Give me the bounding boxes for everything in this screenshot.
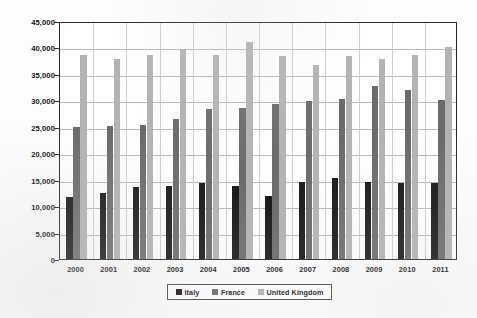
x-tick-label: 2005 — [233, 265, 250, 274]
legend-entry-united-kingdom[interactable]: United Kingdom — [258, 288, 323, 297]
bar-united-kingdom-2007 — [313, 65, 319, 259]
bar-group — [398, 23, 418, 259]
bar-group — [133, 23, 153, 259]
category-separator — [292, 23, 293, 259]
category-separator — [259, 23, 260, 259]
category-separator — [126, 23, 127, 259]
x-tick-label: 2003 — [167, 265, 184, 274]
bar-united-kingdom-2011 — [445, 47, 451, 259]
bar-group — [232, 23, 252, 259]
bar-france-2004 — [206, 109, 212, 259]
bar-united-kingdom-2005 — [246, 42, 252, 259]
bar-united-kingdom-2008 — [346, 56, 352, 259]
bar-group — [365, 23, 385, 259]
bar-italy-2001 — [100, 193, 106, 259]
category-separator — [392, 23, 393, 259]
bar-france-2003 — [173, 119, 179, 259]
bar-france-2000 — [73, 127, 79, 259]
x-tick-label: 2011 — [432, 265, 448, 274]
y-tick-label: 40,000 — [0, 44, 55, 53]
bar-chart-figure: 05,00010,00015,00020,00025,00030,00035,0… — [0, 0, 477, 318]
bar-italy-2008 — [332, 178, 338, 259]
category-separator — [325, 23, 326, 259]
bar-france-2007 — [306, 101, 312, 259]
legend-swatch-icon — [176, 289, 182, 295]
category-separator — [425, 23, 426, 259]
x-tick-label: 2009 — [366, 265, 383, 274]
bar-united-kingdom-2001 — [114, 59, 120, 259]
y-tick-label: 0 — [0, 256, 55, 265]
category-separator — [226, 23, 227, 259]
x-tick-label: 2008 — [332, 265, 349, 274]
bar-france-2008 — [339, 99, 345, 259]
bar-italy-2005 — [232, 186, 238, 259]
x-tick-label: 2000 — [67, 265, 84, 274]
y-tick-label: 30,000 — [0, 97, 55, 106]
bar-italy-2010 — [398, 183, 404, 259]
bar-united-kingdom-2002 — [147, 55, 153, 259]
category-separator — [193, 23, 194, 259]
legend-swatch-icon — [258, 289, 264, 295]
legend-label: Italy — [185, 288, 200, 297]
category-separator — [93, 23, 94, 259]
bar-united-kingdom-2010 — [412, 55, 418, 259]
y-tick-label: 35,000 — [0, 70, 55, 79]
chart-legend: ItalyFranceUnited Kingdom — [167, 284, 332, 300]
category-separator — [160, 23, 161, 259]
plot-area — [59, 22, 457, 260]
bar-group — [431, 23, 451, 259]
bar-italy-2006 — [265, 196, 271, 259]
bar-group — [265, 23, 285, 259]
bar-france-2011 — [438, 100, 444, 259]
bar-italy-2007 — [299, 182, 305, 259]
legend-entry-italy[interactable]: Italy — [176, 288, 199, 297]
x-tick-label: 2007 — [299, 265, 316, 274]
y-tick-label: 5,000 — [0, 229, 55, 238]
bar-france-2005 — [239, 108, 245, 259]
bar-france-2009 — [372, 86, 378, 259]
x-tick-label: 2001 — [100, 265, 117, 274]
y-tick-label: 20,000 — [0, 150, 55, 159]
bar-france-2010 — [405, 90, 411, 259]
bar-group — [100, 23, 120, 259]
legend-entry-france[interactable]: France — [212, 288, 245, 297]
x-tick-label: 2004 — [200, 265, 217, 274]
bar-italy-2011 — [431, 183, 437, 259]
y-tick-label: 15,000 — [0, 176, 55, 185]
bar-united-kingdom-2003 — [180, 49, 186, 259]
bar-group — [299, 23, 319, 259]
bar-group — [166, 23, 186, 259]
bar-group — [66, 23, 86, 259]
bar-united-kingdom-2000 — [80, 55, 86, 259]
bar-italy-2002 — [133, 187, 139, 259]
y-tick-label: 10,000 — [0, 203, 55, 212]
bar-france-2006 — [272, 104, 278, 259]
x-tick-label: 2006 — [266, 265, 283, 274]
x-tick-label: 2002 — [133, 265, 150, 274]
bar-group — [199, 23, 219, 259]
legend-label: United Kingdom — [267, 288, 324, 297]
bar-italy-2000 — [66, 197, 72, 259]
bar-group — [332, 23, 352, 259]
bar-united-kingdom-2006 — [279, 56, 285, 259]
y-tick-label: 45,000 — [0, 18, 55, 27]
category-separator — [359, 23, 360, 259]
bar-france-2001 — [107, 126, 113, 259]
y-tick-label: 25,000 — [0, 123, 55, 132]
bar-italy-2004 — [199, 183, 205, 259]
x-tick-label: 2010 — [399, 265, 416, 274]
bar-france-2002 — [140, 125, 146, 259]
y-tick-mark — [54, 260, 59, 261]
legend-label: France — [221, 288, 245, 297]
legend-swatch-icon — [212, 289, 218, 295]
bar-italy-2003 — [166, 186, 172, 259]
bar-united-kingdom-2004 — [213, 55, 219, 259]
bar-italy-2009 — [365, 182, 371, 259]
bar-united-kingdom-2009 — [379, 59, 385, 259]
